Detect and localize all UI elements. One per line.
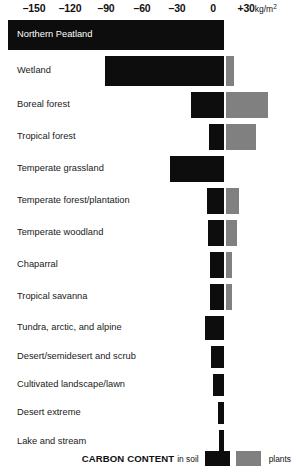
axis-tick-30: +30kg/m2 xyxy=(238,2,277,14)
row-label: Desert/semidesert and scrub xyxy=(17,351,136,361)
axis-tick--120: –120 xyxy=(59,2,82,14)
bar-soil xyxy=(209,124,224,150)
row-label: Lake and stream xyxy=(17,436,86,446)
bar-soil xyxy=(205,316,224,340)
chart-row: Desert/semidesert and scrub xyxy=(0,346,299,374)
axis-tick-0: 0 xyxy=(210,2,216,14)
bar-plants xyxy=(226,124,256,150)
chart-row: Wetland xyxy=(0,56,299,92)
bar-soil xyxy=(210,284,224,310)
axis-tick--30: –30 xyxy=(169,2,186,14)
row-label: Temperate grassland xyxy=(17,163,104,173)
bar-plants xyxy=(226,220,237,246)
bar-soil xyxy=(207,188,224,214)
chart-row: Temperate woodland xyxy=(0,220,299,252)
bar-plants xyxy=(226,284,232,310)
row-label: Temperate woodland xyxy=(17,227,103,237)
chart-row: Tropical savanna xyxy=(0,284,299,316)
chart-row: Tropical forest xyxy=(0,124,299,156)
bar-soil xyxy=(218,402,224,424)
axis-tick--150: –150 xyxy=(23,2,46,14)
bar-soil xyxy=(105,56,224,86)
row-label: Boreal forest xyxy=(17,99,70,109)
bar-soil xyxy=(210,252,224,278)
legend-swatch-soil xyxy=(205,451,230,466)
bar-plants xyxy=(226,188,239,214)
chart-row: Temperate grassland xyxy=(0,156,299,188)
row-label: Tropical savanna xyxy=(17,291,87,301)
bar-plants xyxy=(226,252,232,278)
bar-soil xyxy=(191,92,224,118)
bar-soil xyxy=(213,374,224,396)
axis-tick--60: –60 xyxy=(134,2,151,14)
chart-row: Desert extreme xyxy=(0,402,299,430)
bar-plants xyxy=(226,56,234,86)
chart-row: Tundra, arctic, and alpine xyxy=(0,316,299,346)
legend-title: CARBON CONTENT xyxy=(82,453,175,464)
chart-row: Cultivated landscape/lawn xyxy=(0,374,299,402)
axis-unit-label: kg/m2 xyxy=(255,4,277,14)
bar-plants xyxy=(226,92,268,118)
chart-row: Temperate forest/plantation xyxy=(0,188,299,220)
x-axis: –150–120–90–60–300+30kg/m2 xyxy=(0,0,299,20)
row-label: Tropical forest xyxy=(17,131,76,141)
chart-legend: CARBON CONTENT in soil plants xyxy=(0,448,299,466)
bar-soil xyxy=(219,430,224,454)
row-label: Temperate forest/plantation xyxy=(17,195,130,205)
row-label: Tundra, arctic, and alpine xyxy=(17,322,122,332)
bar-soil xyxy=(170,156,224,182)
row-label: Wetland xyxy=(17,65,51,75)
row-label: Northern Peatland xyxy=(17,29,92,39)
carbon-content-chart: –150–120–90–60–300+30kg/m2 Northern Peat… xyxy=(0,0,299,474)
row-label: Desert extreme xyxy=(17,407,81,417)
bar-soil xyxy=(211,346,224,368)
legend-soil-label: in soil xyxy=(177,454,198,464)
legend-plants-label: plants xyxy=(269,454,291,464)
row-label: Chaparral xyxy=(17,259,58,269)
legend-swatch-plants xyxy=(236,451,261,466)
row-label: Cultivated landscape/lawn xyxy=(17,379,125,389)
chart-row: Boreal forest xyxy=(0,92,299,124)
chart-row: Northern Peatland xyxy=(0,20,299,56)
bar-rows: Northern PeatlandWetlandBoreal forestTro… xyxy=(0,20,299,460)
bar-soil xyxy=(208,220,224,246)
chart-row: Chaparral xyxy=(0,252,299,284)
axis-tick--90: –90 xyxy=(98,2,115,14)
